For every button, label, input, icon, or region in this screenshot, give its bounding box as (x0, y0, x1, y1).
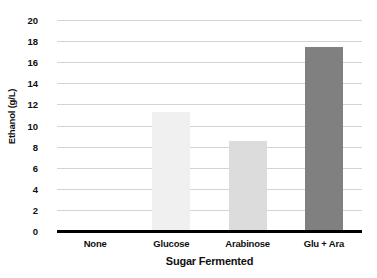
y-axis-tick-label: 6 (0, 162, 38, 173)
x-axis-baseline (57, 230, 362, 233)
x-axis-tick-label: Glu + Ara (264, 238, 377, 249)
y-axis-tick-label: 18 (0, 36, 38, 47)
x-axis-title: Sugar Fermented (57, 255, 362, 267)
y-axis-title-text: Ethanol (g/L) (7, 88, 18, 143)
gridline (57, 41, 362, 42)
y-axis-tick-label: 10 (0, 120, 38, 131)
bar-chart: Ethanol (g/L) 02468101214161820 Sugar Fe… (0, 0, 377, 278)
y-axis-tick-label: 14 (0, 78, 38, 89)
y-axis-tick-label: 2 (0, 204, 38, 215)
y-axis-tick-label: 4 (0, 183, 38, 194)
bar[interactable] (229, 141, 267, 231)
y-axis-tick-label: 0 (0, 226, 38, 237)
y-axis-tick-label: 12 (0, 99, 38, 110)
gridline (57, 20, 362, 21)
plot-area: 02468101214161820 (57, 20, 362, 231)
y-axis-tick-label: 8 (0, 141, 38, 152)
bar[interactable] (152, 112, 190, 231)
y-axis-tick-label: 20 (0, 15, 38, 26)
y-axis-tick-label: 16 (0, 57, 38, 68)
bar[interactable] (305, 47, 343, 231)
